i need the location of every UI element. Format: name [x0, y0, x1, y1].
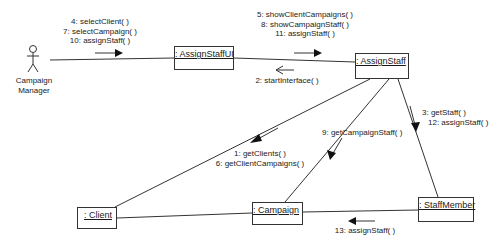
- actor-name: Campaign Manager: [6, 76, 62, 96]
- message-label-control-to-ui: 2: startInterface( ): [252, 76, 322, 86]
- object-campaign[interactable]: : Campaign: [252, 202, 303, 225]
- message-label-control-to-staff: 3: getStaff( ) 12: assignStaff( ): [422, 108, 482, 127]
- message-label-control-to-campaign: 9: getCampaignStaff( ): [322, 128, 402, 138]
- message-label-control-to-client: 1: getClients( ) 6: getClientCampaigns( …: [215, 149, 305, 168]
- message-label-ui-to-control: 5: showClientCampaigns( ) 8: showCampaig…: [255, 10, 355, 39]
- object-assign-staff-ui[interactable]: : AssignStaffUI: [174, 46, 234, 70]
- message-label-staff-to-campaign: 13: assignStaff( ): [330, 226, 400, 236]
- object-staff-member[interactable]: : StaffMember: [418, 197, 474, 222]
- message-label-actor-to-ui: 4: selectClient( ) 7: selectCampaign( ) …: [60, 17, 140, 46]
- object-assign-staff[interactable]: : AssignStaff: [355, 53, 409, 79]
- object-client[interactable]: : Client: [77, 207, 117, 229]
